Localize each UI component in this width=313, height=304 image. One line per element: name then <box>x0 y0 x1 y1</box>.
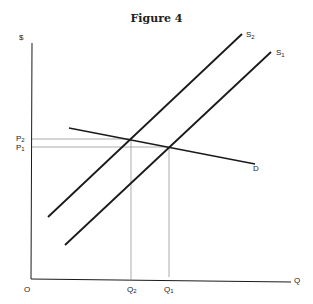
s2-label: S2 <box>246 30 255 40</box>
supply-curve-s2 <box>48 34 242 217</box>
supply-demand-diagram: $ Q O S2 S1 D P2 P1 Q2 Q1 <box>0 0 313 304</box>
y-axis <box>31 43 32 279</box>
y-axis-label: $ <box>19 33 24 42</box>
p1-label: P1 <box>16 143 25 152</box>
p2-label: P2 <box>16 134 25 143</box>
x-axis <box>31 279 291 282</box>
q2-label: Q2 <box>127 285 137 294</box>
d-label: D <box>253 164 259 173</box>
x-axis-label: Q <box>294 276 300 285</box>
s1-label: S1 <box>276 48 285 58</box>
q1-label: Q1 <box>164 285 174 294</box>
supply-curve-s1 <box>65 52 271 245</box>
origin-label: O <box>24 285 30 294</box>
demand-curve <box>69 128 255 164</box>
